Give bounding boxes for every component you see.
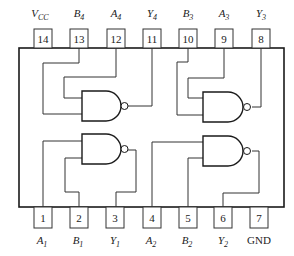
pin-8: 8 Y3 (252, 7, 270, 48)
ic-pinout-diagram: 14 VCC 13 B4 12 A4 11 Y4 10 B3 9 A3 (0, 0, 294, 256)
svg-text:13: 13 (74, 33, 86, 45)
pin-4: 4 A2 (143, 207, 161, 249)
svg-text:B1: B1 (73, 234, 84, 249)
svg-text:VCC: VCC (31, 7, 49, 22)
svg-text:A3: A3 (218, 7, 230, 22)
pin-13: 13 B4 (70, 7, 88, 48)
pin-1: 1 A1 (34, 207, 52, 249)
nand-gate-icon (203, 136, 243, 166)
inverter-bubble-icon (244, 148, 251, 155)
svg-text:A1: A1 (36, 234, 48, 249)
inverter-bubble-icon (121, 146, 128, 153)
pin-7: 7 GND (247, 207, 271, 246)
svg-text:A4: A4 (110, 7, 122, 22)
svg-text:14: 14 (38, 33, 50, 45)
svg-text:Y2: Y2 (218, 234, 228, 249)
svg-text:Y4: Y4 (147, 7, 157, 22)
pin-6: 6 Y2 (214, 207, 232, 249)
svg-text:7: 7 (256, 212, 262, 224)
inverter-bubble-icon (121, 103, 128, 110)
pin-2: 2 B1 (70, 207, 88, 249)
pin-14: 14 VCC (31, 7, 52, 48)
svg-text:A2: A2 (145, 234, 157, 249)
nand-gate-icon (82, 134, 121, 164)
svg-text:11: 11 (147, 33, 158, 45)
pin-12: 12 A4 (107, 7, 125, 48)
inverter-bubble-icon (244, 104, 251, 111)
pin-10: 10 B3 (179, 7, 197, 48)
nand-gate-icon (203, 92, 243, 122)
pin-3: 3 Y1 (106, 207, 124, 249)
svg-text:12: 12 (111, 33, 122, 45)
bottom-pins: 1 A1 2 B1 3 Y1 4 A2 5 B2 6 Y2 (34, 207, 271, 249)
svg-text:B3: B3 (183, 7, 194, 22)
svg-text:1: 1 (40, 212, 46, 224)
top-pins: 14 VCC 13 B4 12 A4 11 Y4 10 B3 9 A3 (31, 7, 270, 48)
svg-text:8: 8 (258, 33, 264, 45)
pin-5: 5 B2 (179, 207, 197, 249)
svg-text:GND: GND (247, 234, 271, 246)
svg-text:Y1: Y1 (110, 234, 120, 249)
svg-text:6: 6 (220, 212, 226, 224)
svg-text:4: 4 (149, 212, 155, 224)
svg-text:Y3: Y3 (256, 7, 266, 22)
svg-text:9: 9 (221, 33, 227, 45)
nand-gate-icon (82, 91, 121, 121)
svg-text:5: 5 (185, 212, 191, 224)
svg-text:B2: B2 (182, 234, 193, 249)
svg-text:2: 2 (76, 212, 82, 224)
pin-9: 9 A3 (215, 7, 233, 48)
svg-text:B4: B4 (74, 7, 85, 22)
svg-text:3: 3 (112, 212, 118, 224)
pin-11: 11 Y4 (143, 7, 161, 48)
svg-text:10: 10 (183, 33, 195, 45)
